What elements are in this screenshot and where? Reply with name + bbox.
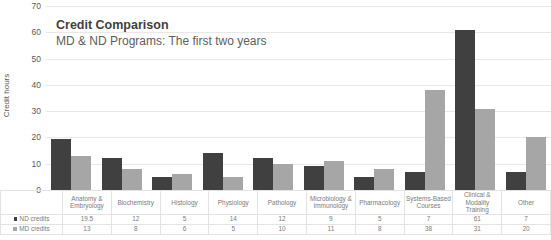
bar-group [450, 6, 501, 190]
value-cell: 14 [209, 214, 258, 224]
bar-group [400, 6, 451, 190]
y-axis-ticks: 706050403020100 [18, 6, 44, 190]
bar-group [299, 6, 350, 190]
y-axis-title-text: Credit hours [3, 73, 12, 117]
bar-md [122, 169, 142, 190]
legend-label: ND credits [20, 215, 50, 222]
bar-md [273, 164, 293, 190]
y-axis-tick-40: 40 [32, 80, 41, 90]
legend-label: MD credits [19, 225, 50, 232]
table-row: Anatomy & EmbryologyBiochemistryHistolog… [1, 191, 551, 215]
value-cell: 20 [502, 224, 551, 234]
bar-nd [304, 166, 324, 190]
category-header-cell: Systems-Based Courses [404, 191, 453, 215]
chart-subtitle: MD & ND Programs: The first two years [56, 34, 267, 49]
bar-nd [102, 158, 122, 190]
value-cell: 8 [111, 224, 160, 234]
value-cell: 5 [209, 224, 258, 234]
table-corner-cell [1, 191, 63, 215]
value-cell: 31 [453, 224, 502, 234]
table-row: ND credits19.51251412957617 [1, 214, 551, 224]
bar-md [425, 90, 445, 190]
value-cell: 19.5 [63, 214, 112, 224]
category-header-cell: Microbiology & Immunology [306, 191, 355, 215]
value-cell: 61 [453, 214, 502, 224]
legend-swatch-icon [14, 217, 18, 221]
value-cell: 5 [355, 214, 404, 224]
category-header-cell: Biochemistry [111, 191, 160, 215]
value-cell: 5 [160, 214, 209, 224]
y-axis-tick-60: 60 [32, 27, 41, 37]
value-cell: 8 [355, 224, 404, 234]
value-cell: 12 [111, 214, 160, 224]
value-cell: 11 [306, 224, 355, 234]
bar-md [324, 161, 344, 190]
legend-item-md: MD credits [1, 224, 63, 234]
value-cell: 7 [404, 214, 453, 224]
bar-group [349, 6, 400, 190]
value-cell: 13 [63, 224, 112, 234]
value-cell: 38 [404, 224, 453, 234]
value-cell: 10 [258, 224, 307, 234]
y-axis-tick-20: 20 [32, 132, 41, 142]
chart-titles: Credit Comparison MD & ND Programs: The … [56, 18, 267, 49]
value-cell: 12 [258, 214, 307, 224]
bar-nd [405, 172, 425, 190]
credit-comparison-chart: Credit hours 706050403020100 Credit Comp… [0, 0, 551, 240]
bar-md [71, 156, 91, 190]
category-header-cell: Pharmacology [355, 191, 404, 215]
legend-item-nd: ND credits [1, 214, 63, 224]
category-header-cell: Anatomy & Embryology [63, 191, 112, 215]
table-row: MD credits1386510118383120 [1, 224, 551, 234]
bar-md [172, 174, 192, 190]
bar-md [223, 177, 243, 190]
bar-nd [152, 177, 172, 190]
bar-md [526, 137, 546, 190]
value-cell: 9 [306, 214, 355, 224]
bar-md [475, 109, 495, 190]
chart-title: Credit Comparison [56, 18, 267, 34]
bar-nd [253, 158, 273, 190]
value-cell: 7 [502, 214, 551, 224]
y-axis-tick-10: 10 [32, 159, 41, 169]
bar-nd [354, 177, 374, 190]
y-axis-tick-50: 50 [32, 54, 41, 64]
bar-group [501, 6, 551, 190]
bar-nd [51, 139, 71, 190]
legend-swatch-icon [13, 227, 17, 231]
bar-nd [506, 172, 526, 190]
data-table-wrap: Anatomy & EmbryologyBiochemistryHistolog… [0, 190, 551, 235]
category-header-cell: Pathology [258, 191, 307, 215]
category-header-cell: Histology [160, 191, 209, 215]
category-header-cell: Physiology [209, 191, 258, 215]
category-header-cell: Other [502, 191, 551, 215]
category-header-cell: Clinical & Modality Training [453, 191, 502, 215]
y-axis-tick-70: 70 [32, 1, 41, 11]
value-cell: 6 [160, 224, 209, 234]
bar-nd [455, 30, 475, 190]
bar-nd [203, 153, 223, 190]
data-table: Anatomy & EmbryologyBiochemistryHistolog… [0, 190, 551, 235]
y-axis-title: Credit hours [0, 0, 14, 190]
bar-md [374, 169, 394, 190]
y-axis-tick-30: 30 [32, 106, 41, 116]
